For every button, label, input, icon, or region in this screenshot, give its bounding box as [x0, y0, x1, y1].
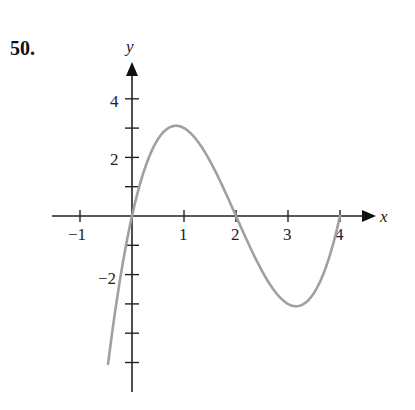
x-tick-label: 3 [283, 225, 292, 244]
x-tick-label: 2 [231, 225, 240, 244]
y-tick-label: 4 [110, 92, 119, 111]
x-axis-label: x [379, 207, 388, 226]
x-axis-arrow-icon [362, 210, 376, 222]
y-tick-label: −2 [98, 269, 116, 288]
y-axis-label: y [124, 37, 134, 56]
y-tick-label: 2 [110, 150, 119, 169]
y-axis-arrow-icon [126, 62, 138, 76]
x-tick-label: 1 [179, 225, 188, 244]
function-graph: x y −1 1 2 3 4 4 2 −2 [0, 0, 415, 410]
x-tick-label: −1 [68, 225, 86, 244]
function-curve [108, 126, 340, 364]
